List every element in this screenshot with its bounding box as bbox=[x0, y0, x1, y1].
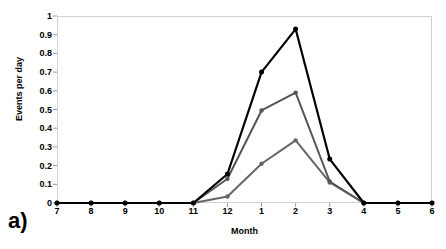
y-tick-label: 0.2 bbox=[8, 161, 52, 171]
x-tick-label: 1 bbox=[247, 206, 277, 216]
y-tick-label: 0.8 bbox=[8, 48, 52, 58]
y-tick-label: 0.5 bbox=[8, 105, 52, 115]
x-tick-label: 7 bbox=[42, 206, 72, 216]
x-tick-label: 8 bbox=[76, 206, 106, 216]
y-tick-label: 0.1 bbox=[8, 179, 52, 189]
x-tick-label: 5 bbox=[383, 206, 413, 216]
x-tick-label: 3 bbox=[315, 206, 345, 216]
panel-letter: a) bbox=[8, 210, 28, 232]
y-tick-label: 0.7 bbox=[8, 67, 52, 77]
x-tick-label: 6 bbox=[417, 206, 446, 216]
y-tick-label: 1 bbox=[8, 11, 52, 21]
x-tick-label: 12 bbox=[212, 206, 242, 216]
y-tick-label: 0.6 bbox=[8, 86, 52, 96]
y-tick-label: 0.4 bbox=[8, 123, 52, 133]
y-tick-label: 0.3 bbox=[8, 142, 52, 152]
x-axis-label: Month bbox=[57, 226, 432, 236]
x-tick-label: 2 bbox=[281, 206, 311, 216]
y-tick-label: 0.9 bbox=[8, 30, 52, 40]
figure-panel-a: Events per day 00.10.20.30.40.50.60.70.8… bbox=[0, 0, 446, 249]
x-tick-label: 4 bbox=[349, 206, 379, 216]
x-tick-label: 11 bbox=[178, 206, 208, 216]
plot-area bbox=[57, 16, 432, 203]
x-tick-label: 9 bbox=[110, 206, 140, 216]
x-tick-label: 10 bbox=[144, 206, 174, 216]
